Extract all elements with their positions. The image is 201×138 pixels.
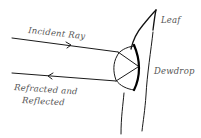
internal-refraction-path	[116, 52, 138, 81]
dewdrop-diagram: Leaf Dewdrop Incident Ray Refracted and …	[0, 0, 201, 138]
internal-path-in	[118, 52, 138, 66]
internal-path-out	[116, 67, 138, 81]
outgoing-ray-line	[12, 73, 116, 81]
leaf-left-edge-lower	[121, 93, 124, 134]
incident-ray	[12, 38, 118, 52]
dewdrop-label: Dewdrop	[153, 66, 195, 76]
incident-ray-line	[12, 38, 118, 52]
leaf-label: Leaf	[160, 15, 182, 25]
outgoing-ray-label-line2: Reflected	[21, 95, 66, 107]
outgoing-ray	[12, 73, 116, 81]
dewdrop-front-surface	[114, 46, 134, 90]
incident-ray-label: Incident Ray	[27, 25, 86, 41]
leaf-right-edge	[142, 32, 153, 131]
leaf-left-edge-upper	[131, 10, 156, 49]
